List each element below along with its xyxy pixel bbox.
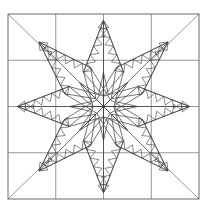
center-star (70, 73, 138, 141)
feathered-star-drawing (0, 0, 211, 207)
quilt-block-canvas (0, 0, 211, 207)
